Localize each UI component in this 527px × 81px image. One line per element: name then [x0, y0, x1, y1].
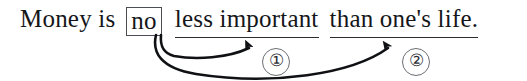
sentence-line: Money is no less important than one's li…: [20, 4, 478, 34]
marker-circle-2: ②: [402, 48, 430, 76]
underlined-phrase-2: than one's life.: [330, 4, 479, 35]
sentence-segment-plain: Money is: [20, 4, 115, 34]
underlined-phrase-1: less important: [175, 4, 319, 35]
annotated-sentence-figure: Money is no less important than one's li…: [0, 0, 527, 81]
marker-circle-1: ①: [262, 48, 290, 76]
arrow-curve-1: [161, 35, 249, 58]
boxed-word-no: no: [126, 7, 161, 36]
